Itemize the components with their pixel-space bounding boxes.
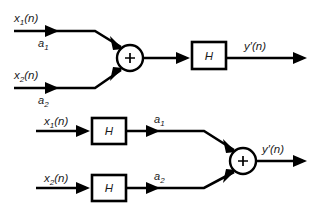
top-input-1-label: x1(n) xyxy=(13,12,38,27)
block-diagram-figure: H x1(n) a1 x2(n) a2 y′(n) H xyxy=(0,0,316,209)
top-input-2-adder-arrowhead xyxy=(110,67,123,81)
bottom-output-label: y′(n) xyxy=(261,143,284,155)
bottom-system-block-2-label: H xyxy=(105,182,114,194)
top-block-input-arrowhead xyxy=(176,52,190,64)
top-gain-2-label: a2 xyxy=(38,94,49,109)
bottom-output-arrowhead xyxy=(293,155,307,167)
bottom-branch-1-wire xyxy=(126,131,234,150)
top-input-1-arrowhead xyxy=(45,25,59,37)
bottom-block-2-input-arrowhead xyxy=(76,182,90,194)
bottom-gain-2-label: a2 xyxy=(154,170,165,185)
bottom-system-block-1-label: H xyxy=(105,125,114,137)
bottom-block-1-input-arrowhead xyxy=(76,125,90,137)
top-input-2-label: x2(n) xyxy=(13,69,38,84)
bottom-branch-2-wire xyxy=(126,172,234,188)
top-output-label: y′(n) xyxy=(243,40,266,52)
top-diagram: H x1(n) a1 x2(n) a2 y′(n) xyxy=(13,12,307,109)
top-gain-1-label: a1 xyxy=(38,37,49,52)
diagram-canvas: H x1(n) a1 x2(n) a2 y′(n) H xyxy=(0,0,316,209)
top-output-arrowhead xyxy=(293,52,307,64)
bottom-diagram: H H x1(n) a1 x2(n) a2 y xyxy=(36,113,307,201)
top-system-block-label: H xyxy=(205,50,214,62)
bottom-gain-1-label: a1 xyxy=(154,113,165,128)
bottom-branch-1-arrowhead xyxy=(146,125,160,137)
bottom-input-2-label: x2(n) xyxy=(43,172,68,187)
top-input-2-arrowhead xyxy=(45,82,59,94)
bottom-input-1-label: x1(n) xyxy=(43,115,68,130)
top-input-1-wire xyxy=(14,31,121,47)
bottom-branch-2-arrowhead xyxy=(146,182,160,194)
